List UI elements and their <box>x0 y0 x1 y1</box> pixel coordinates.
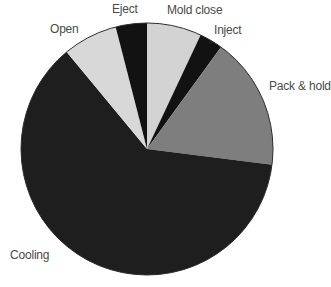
slice-label-inject: Inject <box>214 23 241 37</box>
slice-label-eject: Eject <box>112 2 138 16</box>
slice-label-mold-close: Mold close <box>167 3 222 17</box>
pie-slices-group <box>21 23 273 275</box>
pie-chart-figure: Eject Mold close Open Inject Pack & hold… <box>0 0 331 287</box>
slice-label-pack-hold: Pack & hold <box>269 79 331 93</box>
slice-label-cooling: Cooling <box>10 248 49 262</box>
pie-chart-canvas <box>0 0 331 287</box>
slice-label-open: Open <box>50 22 79 36</box>
